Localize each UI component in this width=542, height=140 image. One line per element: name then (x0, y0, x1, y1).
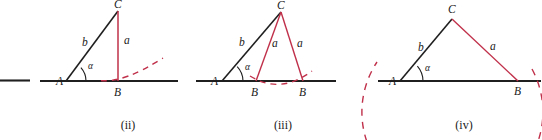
panel-iv: A B C b a α (iv) (362, 3, 542, 140)
vertex-label-B2-iii: B (299, 86, 306, 98)
vertex-label-C-iv: C (448, 3, 456, 15)
side-label-b-iii: b (239, 36, 245, 48)
side-label-b-iv: b (418, 41, 424, 53)
vertex-label-C-iii: C (277, 0, 285, 11)
angle-label-alpha-ii: α (88, 61, 94, 71)
angle-arc-alpha-iv (417, 66, 423, 81)
caption-iv: (iv) (455, 118, 472, 132)
panel-iii: A B B C b a a α (iii) (196, 0, 336, 132)
caption-ii: (ii) (121, 118, 136, 132)
vertex-label-B-iv: B (514, 85, 521, 97)
figure-panel: A B C b a α (ii) A B B C b a (0, 0, 542, 140)
side-label-a-iv: a (490, 40, 496, 52)
angle-label-alpha-iii: α (245, 62, 251, 72)
construction-arc-ii (101, 58, 163, 81)
geometry-figure-svg: A B C b a α (ii) A B B C b a (0, 0, 542, 140)
side-a-iv (452, 19, 518, 81)
side-label-a2-iii: a (297, 37, 303, 49)
vertex-label-A-ii: A (55, 75, 64, 87)
vertex-label-A-iii: A (210, 75, 219, 87)
vertex-label-C-ii: C (114, 0, 122, 10)
panel-ii: A B C b a α (ii) (40, 0, 178, 132)
angle-arc-alpha-iii (237, 67, 243, 81)
side-label-a-ii: a (124, 34, 130, 46)
angle-label-alpha-iv: α (425, 63, 431, 73)
vertex-label-B1-iii: B (251, 86, 258, 98)
caption-iii: (iii) (274, 118, 292, 132)
side-label-a1-iii: a (272, 37, 278, 49)
side-label-b-ii: b (82, 36, 88, 48)
construction-arc-iv (362, 62, 542, 140)
vertex-label-B-ii: B (114, 86, 121, 98)
angle-arc-alpha-ii (81, 68, 86, 81)
vertex-label-A-iv: A (388, 75, 397, 87)
